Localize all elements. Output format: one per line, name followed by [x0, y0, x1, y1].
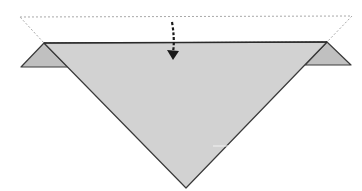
dashed-guide-outline	[20, 16, 352, 43]
main-paper-triangle	[44, 42, 327, 188]
origami-diagram	[0, 0, 362, 191]
fold-edge	[44, 42, 327, 43]
